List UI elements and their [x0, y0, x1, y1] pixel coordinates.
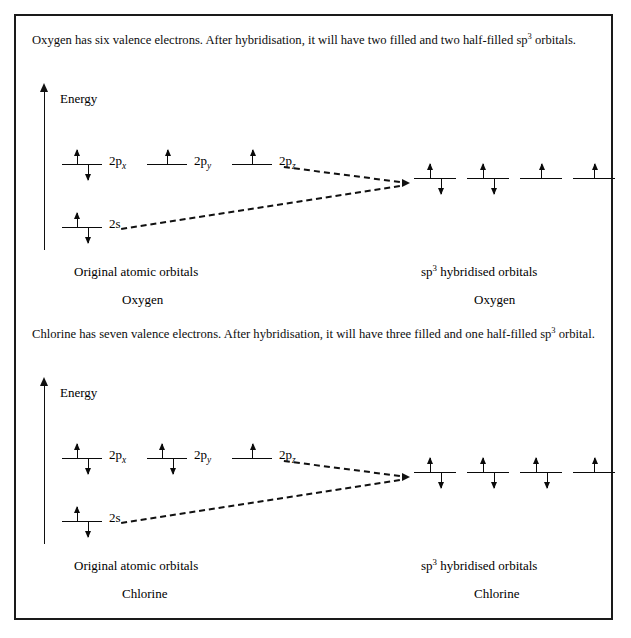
description-text-main: Chlorine has seven valence electrons. Af…: [32, 327, 551, 341]
section-description-oxygen: Oxygen has six valence electrons. After …: [32, 32, 600, 49]
connector-dash-p-chlorine: [284, 460, 400, 477]
electron-arrow-up: [252, 150, 253, 165]
electron-arrow-up: [77, 150, 78, 165]
orbital-label-oxygen-2px: 2px: [109, 153, 126, 169]
caption-element-right-oxygen: Oxygen: [474, 292, 515, 308]
connector-arrowhead-oxygen: [402, 179, 410, 187]
connector-arrowhead-chlorine: [402, 473, 410, 481]
hybrid-orbital-chlorine-3: [520, 472, 562, 473]
orbital-label-base: 2p: [109, 447, 122, 462]
hybrid-orbital-oxygen-3: [520, 178, 562, 179]
caption-sp-base: sp: [421, 264, 433, 279]
atomic-orbital-chlorine-2pz: [232, 458, 272, 459]
atomic-orbital-oxygen-2py: [147, 164, 187, 165]
description-text-tail: orbital.: [556, 327, 595, 341]
electron-arrow-up: [430, 164, 431, 179]
electron-arrow-down: [88, 459, 89, 474]
energy-axis-label-oxygen: Energy: [60, 91, 97, 107]
electron-arrow-down: [494, 473, 495, 488]
electron-arrow-down: [88, 522, 89, 537]
caption-original-orbitals-oxygen: Original atomic orbitals: [74, 264, 198, 280]
caption-sp-tail: hybridised orbitals: [437, 264, 537, 279]
orbital-label-oxygen-2s: 2s: [109, 216, 121, 232]
orbital-label-base: 2p: [194, 447, 207, 462]
electron-arrow-down: [88, 228, 89, 243]
orbital-label-subscript: x: [122, 455, 126, 465]
orbital-label-oxygen-2py: 2py: [194, 153, 211, 169]
electron-arrow-down: [494, 179, 495, 194]
atomic-orbital-chlorine-2py: [147, 458, 187, 459]
energy-axis-label-chlorine: Energy: [60, 385, 97, 401]
caption-element-left-chlorine: Chlorine: [122, 586, 168, 602]
orbital-label-subscript: x: [122, 161, 126, 171]
electron-arrow-up: [541, 164, 542, 179]
caption-sp-tail: hybridised orbitals: [437, 558, 537, 573]
section-description-chlorine: Chlorine has seven valence electrons. Af…: [32, 326, 600, 343]
caption-element-right-chlorine: Chlorine: [474, 586, 520, 602]
atomic-orbital-oxygen-2px: [62, 164, 102, 165]
hybrid-orbital-oxygen-4: [573, 178, 615, 179]
atomic-orbital-oxygen-2s: [62, 227, 102, 228]
electron-arrow-down: [173, 459, 174, 474]
atomic-orbital-chlorine-2s: [62, 521, 102, 522]
caption-element-left-oxygen: Oxygen: [122, 292, 163, 308]
atomic-orbital-chlorine-2px: [62, 458, 102, 459]
energy-axis-chlorine: [44, 384, 45, 544]
electron-arrow-down: [441, 473, 442, 488]
hybrid-orbital-chlorine-4: [573, 472, 615, 473]
connector-dash-s-oxygen: [121, 185, 400, 230]
orbital-label-chlorine-2py: 2py: [194, 447, 211, 463]
connector-dash-s-chlorine: [121, 479, 400, 524]
electron-arrow-up: [77, 213, 78, 228]
electron-arrow-up: [594, 164, 595, 179]
energy-axis-oxygen: [44, 90, 45, 250]
description-text-tail: orbitals.: [532, 33, 576, 47]
atomic-orbital-oxygen-2pz: [232, 164, 272, 165]
electron-arrow-up: [77, 444, 78, 459]
hybrid-orbital-chlorine-1: [414, 472, 456, 473]
electron-arrow-up: [167, 150, 168, 165]
orbital-label-chlorine-2s: 2s: [109, 510, 121, 526]
caption-sp-base: sp: [421, 558, 433, 573]
electron-arrow-up: [77, 507, 78, 522]
diagram-frame: Oxygen has six valence electrons. After …: [14, 14, 613, 620]
electron-arrow-up: [162, 444, 163, 459]
caption-hybridised-orbitals-oxygen: sp3 hybridised orbitals: [421, 264, 537, 280]
electron-arrow-up: [594, 458, 595, 473]
electron-arrow-up: [536, 458, 537, 473]
description-text-main: Oxygen has six valence electrons. After …: [32, 33, 528, 47]
connector-dash-p-oxygen: [284, 166, 400, 183]
electron-arrow-up: [252, 444, 253, 459]
electron-arrow-down: [441, 179, 442, 194]
orbital-label-base: 2p: [194, 153, 207, 168]
electron-arrow-down: [547, 473, 548, 488]
orbital-label-chlorine-2px: 2px: [109, 447, 126, 463]
hybrid-orbital-oxygen-2: [467, 178, 509, 179]
hybrid-orbital-oxygen-1: [414, 178, 456, 179]
orbital-label-subscript: y: [207, 161, 211, 171]
hybrid-orbital-chlorine-2: [467, 472, 509, 473]
electron-arrow-up: [483, 164, 484, 179]
caption-original-orbitals-chlorine: Original atomic orbitals: [74, 558, 198, 574]
electron-arrow-up: [483, 458, 484, 473]
orbital-label-base: 2p: [109, 153, 122, 168]
electron-arrow-down: [88, 165, 89, 180]
caption-hybridised-orbitals-chlorine: sp3 hybridised orbitals: [421, 558, 537, 574]
electron-arrow-up: [430, 458, 431, 473]
orbital-label-subscript: y: [207, 455, 211, 465]
